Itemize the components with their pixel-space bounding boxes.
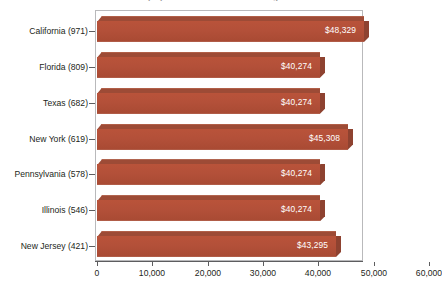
y-axis-label: Texas (682): [0, 98, 88, 108]
x-axis-tick: [208, 262, 209, 266]
y-axis-tick: [89, 174, 95, 175]
x-axis-label: 30,000: [250, 268, 276, 279]
y-axis-tick: [89, 103, 95, 104]
bar-value-label: $45,308: [97, 133, 340, 143]
bar-value-label: $40,274: [97, 168, 312, 178]
y-axis-tick: [89, 210, 95, 211]
y-axis-label: Illinois (546): [0, 205, 88, 215]
bar-value-label: $40,274: [97, 97, 312, 107]
bar: $45,308: [97, 124, 353, 150]
x-axis-tick: [374, 262, 375, 266]
x-axis-line: [95, 261, 363, 262]
x-axis-label: 10,000: [139, 268, 165, 279]
x-axis-label: 0: [95, 268, 100, 279]
bar: $40,274: [97, 88, 325, 114]
x-axis-tick: [152, 262, 153, 266]
x-axis-label: 40,000: [305, 268, 331, 279]
bar-value-label: $48,329: [97, 25, 356, 35]
x-axis-label: 50,000: [361, 268, 387, 279]
y-axis-tick: [89, 139, 95, 140]
chart-title: Median Salary by State for Retail Store …: [0, 0, 386, 1]
bar-side-face: [320, 57, 325, 78]
y-axis-label: New Jersey (421): [0, 241, 88, 251]
bar-value-label: $40,274: [97, 61, 312, 71]
bar: $40,274: [97, 159, 325, 185]
bar: $43,295: [97, 231, 341, 257]
bar-side-face: [364, 21, 369, 42]
y-axis-tick: [89, 31, 95, 32]
bar-value-label: $43,295: [97, 240, 328, 250]
x-axis-label: 20,000: [195, 268, 221, 279]
y-axis-label: California (971): [0, 26, 88, 36]
x-axis-tick: [318, 262, 319, 266]
y-axis-label: New York (619): [0, 134, 88, 144]
bar-value-label: $40,274: [97, 204, 312, 214]
y-axis-tick: [89, 246, 95, 247]
x-axis-tick: [97, 262, 98, 266]
x-axis-tick: [263, 262, 264, 266]
y-axis-tick: [89, 67, 95, 68]
x-axis-label: 60,000: [416, 268, 442, 279]
y-axis-label: Pennsylvania (578): [0, 169, 88, 179]
bar: $40,274: [97, 52, 325, 78]
bar-side-face: [348, 129, 353, 150]
y-axis-labels: California (971)Florida (809)Texas (682)…: [0, 10, 88, 261]
bar: $40,274: [97, 195, 325, 221]
bar-side-face: [336, 236, 341, 257]
y-axis-label: Florida (809): [0, 62, 88, 72]
bar-side-face: [320, 164, 325, 185]
x-axis-tick: [429, 262, 430, 266]
bar-side-face: [320, 93, 325, 114]
bar: $48,329: [97, 16, 369, 42]
bar-side-face: [320, 200, 325, 221]
